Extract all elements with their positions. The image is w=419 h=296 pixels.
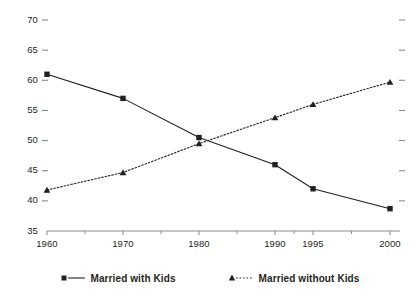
data-point-marker	[196, 135, 201, 140]
data-point-marker	[120, 169, 127, 175]
legend-label: Married with Kids	[91, 273, 176, 284]
x-tick-label: 1995	[293, 238, 333, 249]
series-line-1	[47, 82, 390, 190]
legend-triangle-marker-icon	[228, 273, 254, 283]
data-point-marker	[44, 72, 49, 77]
x-tick-label: 1960	[27, 238, 67, 249]
y-tick-label: 55	[16, 104, 38, 115]
series-line-0	[47, 74, 390, 208]
legend-entry[interactable]: Married without Kids	[228, 273, 360, 284]
legend-label: Married without Kids	[259, 273, 360, 284]
data-point-marker	[310, 186, 315, 191]
data-point-marker	[310, 101, 317, 107]
x-tick-label: 2000	[370, 238, 410, 249]
series-lines	[47, 74, 390, 208]
legend-square-marker-icon	[60, 273, 86, 283]
y-tick-label: 40	[16, 194, 38, 205]
chart-legend: Married with KidsMarried without Kids	[0, 266, 419, 290]
data-point-marker	[120, 96, 125, 101]
y-tick-label: 50	[16, 134, 38, 145]
x-tick-label: 1990	[255, 238, 295, 249]
y-tick-label: 35	[16, 225, 38, 236]
data-point-marker	[272, 162, 277, 167]
chart-container: 3540455055606570 19601970198019901995200…	[0, 0, 419, 296]
tick-marks	[42, 20, 405, 235]
series-markers	[44, 72, 394, 212]
legend-entry[interactable]: Married with Kids	[60, 273, 176, 284]
y-tick-label: 70	[16, 14, 38, 25]
chart-plot-area	[0, 0, 419, 296]
y-tick-label: 45	[16, 164, 38, 175]
y-tick-label: 60	[16, 74, 38, 85]
y-tick-label: 65	[16, 44, 38, 55]
x-tick-label: 1980	[179, 238, 219, 249]
data-point-marker	[44, 187, 51, 193]
x-tick-label: 1970	[103, 238, 143, 249]
data-point-marker	[387, 206, 392, 211]
data-point-marker	[387, 79, 394, 85]
